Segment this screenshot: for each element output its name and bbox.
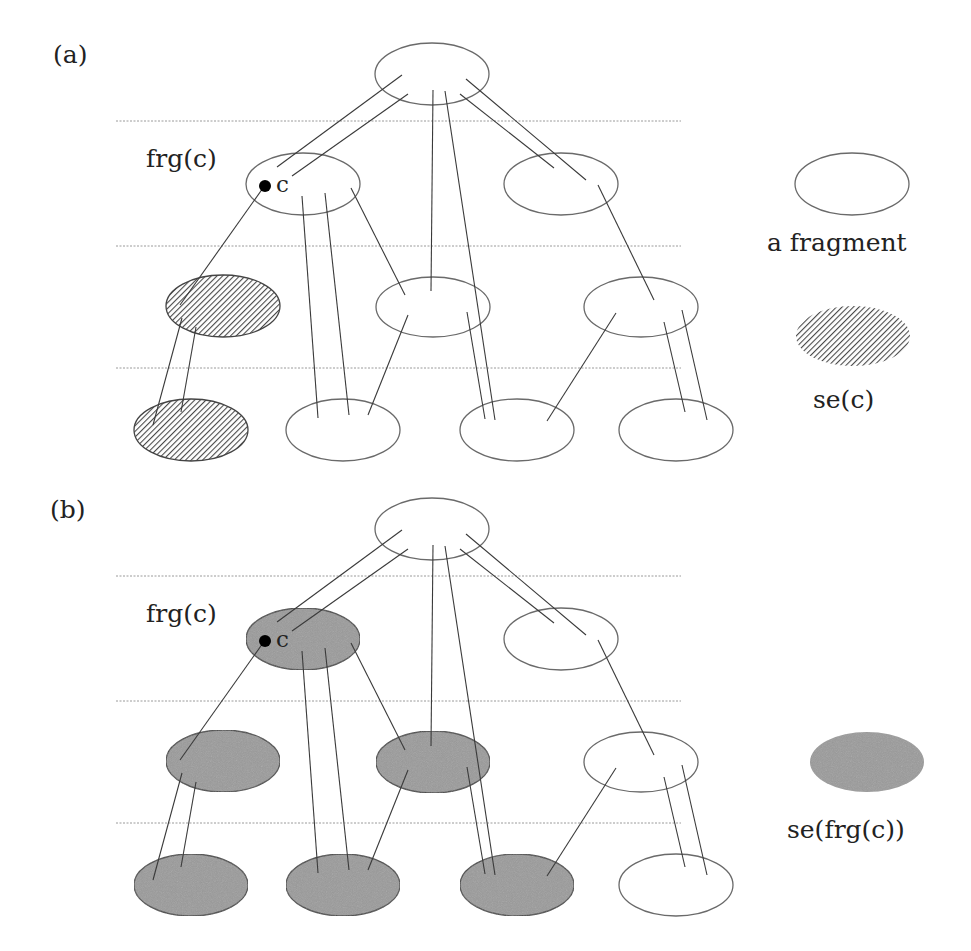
legend-se-c-swatch (796, 306, 910, 366)
legend-fragment-swatch (795, 153, 909, 215)
panel-a-label: (a) (53, 42, 87, 67)
fragment-node (286, 399, 400, 461)
legend-se-frg-c-label: se(frg(c)) (787, 817, 905, 842)
fragment-node (376, 277, 490, 337)
frg-c-label: frg(c) (146, 146, 217, 171)
fragment-node (504, 608, 618, 670)
fragment-node (584, 277, 698, 337)
fragment-node-se-frg-c (286, 854, 400, 916)
fragment-node-root (375, 43, 489, 105)
panel-b-diagram (116, 498, 924, 916)
fragment-node (584, 732, 698, 792)
panel-b-label: (b) (50, 497, 86, 522)
legend-se-frg-c-swatch (810, 732, 924, 792)
fragment-node-root (375, 498, 489, 560)
fragment-node (619, 854, 733, 916)
fragment-node-se-frg-c (460, 854, 574, 916)
fragment-node-se-frg-c (134, 854, 248, 916)
panel-a-links (153, 75, 707, 425)
fragment-node (504, 153, 618, 215)
point-c-marker (259, 635, 271, 647)
legend-se-c-label: se(c) (813, 387, 874, 412)
fragment-node (619, 399, 733, 461)
legend-fragment-label: a fragment (767, 230, 907, 255)
fragment-node (460, 399, 574, 461)
frg-c-label: frg(c) (146, 601, 217, 626)
point-c-marker (259, 180, 271, 192)
point-c-label: c (276, 628, 289, 651)
point-c-label: c (276, 173, 289, 196)
fragment-node-se-c (166, 275, 280, 337)
panel-b-links (153, 530, 707, 880)
panel-b-nodes (134, 498, 733, 916)
fragment-diagram (0, 0, 971, 951)
panel-a-nodes (134, 43, 733, 461)
fragment-node-se-c (134, 399, 248, 461)
fragment-node-se-frg-c (166, 730, 280, 792)
fragment-node-se-frg-c (376, 731, 490, 793)
